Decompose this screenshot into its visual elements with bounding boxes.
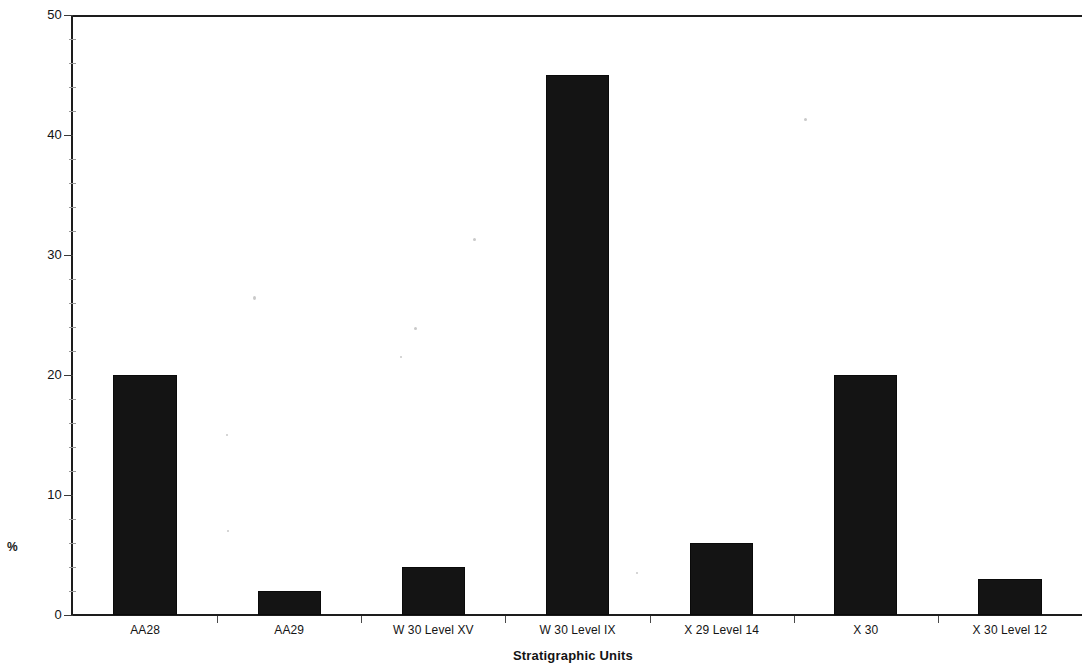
y-axis-tick-label-text: 10 — [20, 487, 62, 502]
y-axis-tick — [64, 135, 73, 136]
x-axis-tick-label: W 30 Level XV — [393, 623, 474, 637]
y-axis-tick-label-text: 20 — [20, 367, 62, 382]
y-axis-tick-label: 10 — [8, 487, 62, 503]
y-axis-tick-label-text: 50 — [20, 7, 62, 22]
x-axis-tick-label: X 30 Level 12 — [973, 623, 1048, 637]
x-axis-tick — [938, 616, 939, 623]
y-axis-tick-label: 20 — [8, 367, 62, 383]
x-axis-tick-label: AA29 — [274, 623, 304, 637]
x-axis-tick — [505, 616, 506, 623]
x-axis-tick-label: AA28 — [130, 623, 160, 637]
x-axis-tick-label: X 29 Level 14 — [684, 623, 759, 637]
bar — [690, 543, 753, 615]
y-axis-tick-label-text: 0 — [20, 607, 62, 622]
x-axis-title: Stratigraphic Units — [0, 648, 1082, 663]
bar — [258, 591, 321, 615]
y-axis-tick-label: 30 — [8, 247, 62, 263]
x-axis-tick-label: W 30 Level IX — [539, 623, 615, 637]
y-axis-tick — [64, 375, 73, 376]
y-axis-tick-label-text: 40 — [20, 127, 62, 142]
bar — [113, 375, 176, 615]
x-axis-tick — [794, 616, 795, 623]
y-axis-title: % — [7, 540, 18, 554]
bar — [834, 375, 897, 615]
bar — [978, 579, 1041, 615]
y-axis-tick-label-text: 30 — [20, 247, 62, 262]
y-axis-tick — [64, 255, 73, 256]
y-axis-tick — [64, 15, 73, 16]
x-axis-tick — [217, 616, 218, 623]
bar-chart-figure: 01020304050 % AA28AA29W 30 Level XVW 30 … — [0, 0, 1082, 666]
y-axis-tick-label: 50 — [8, 7, 62, 23]
y-axis-tick-label: 40 — [8, 127, 62, 143]
x-axis-tick-label: X 30 — [853, 623, 878, 637]
bars-container — [73, 15, 1082, 615]
bar — [546, 75, 609, 615]
x-axis-tick — [361, 616, 362, 623]
y-axis-tick — [64, 495, 73, 496]
x-axis-title-text: Stratigraphic Units — [513, 648, 633, 663]
bar — [402, 567, 465, 615]
y-axis-tick — [64, 615, 73, 616]
x-axis-tick — [650, 616, 651, 623]
y-axis-tick-label: 0 — [8, 607, 62, 623]
